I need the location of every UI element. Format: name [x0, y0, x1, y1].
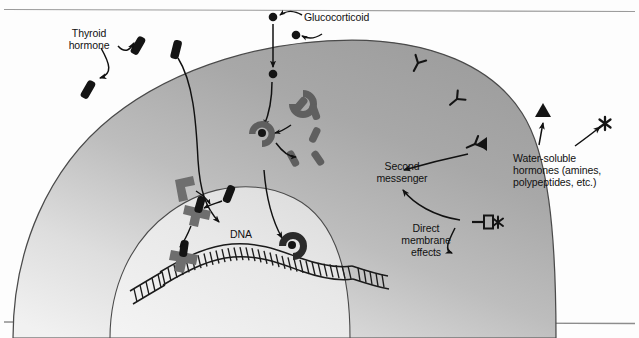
glucocorticoid-dot-intracellular — [269, 70, 278, 79]
water-soluble-triangle-icon — [535, 103, 551, 117]
thyroid-hormone-bar — [80, 79, 97, 100]
arrow-glucocorticoid-lower — [302, 34, 322, 38]
label-second-messenger: Second messenger — [371, 160, 433, 184]
label-glucocorticoid: Glucocorticoid — [304, 11, 369, 23]
hormone-action-figure: Thyroid hormone Glucocorticoid Second me… — [0, 0, 639, 338]
arrow-glucocorticoid-upper — [280, 12, 302, 15]
label-dna: DNA — [230, 228, 252, 240]
label-water-soluble-hormones: Water-soluble hormones (amines, polypept… — [513, 152, 635, 189]
thyroid-hormone-bar — [170, 39, 183, 59]
bound-glucocorticoid-dot — [258, 129, 266, 137]
label-thyroid-hormone: Thyroid hormone — [57, 27, 121, 51]
water-soluble-star-icon — [600, 117, 611, 130]
arrow-to-star-icon — [575, 127, 600, 146]
label-direct-membrane-effects: Direct membrane effects — [399, 222, 453, 259]
arrow-thyroid-to-bar-lower — [100, 48, 109, 78]
glucocorticoid-dot — [269, 13, 278, 22]
glucocorticoid-dot — [292, 31, 301, 40]
arrow-to-triangle-icon — [539, 123, 543, 145]
